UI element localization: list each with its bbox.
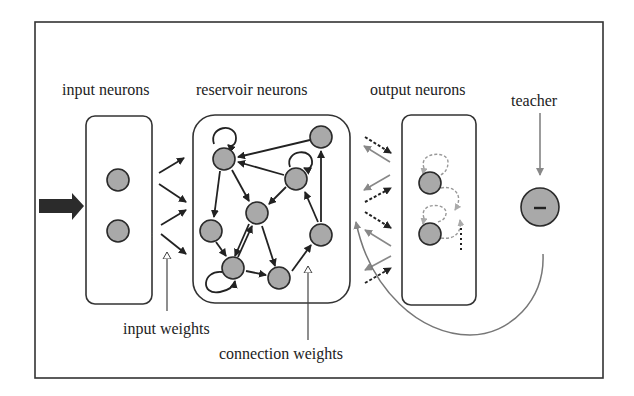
label-output-neurons: output neurons [370, 81, 466, 99]
reservoir-neuron-h [268, 267, 290, 289]
label-reservoir-neurons: reservoir neurons [196, 81, 308, 98]
reservoir-neuron-e [200, 220, 222, 242]
reservoir-neuron-g [222, 257, 244, 279]
label-input-neurons: input neurons [62, 81, 150, 99]
input-signal-arrow-icon [39, 193, 84, 220]
reservoir-neuron-b [310, 126, 332, 148]
output-neurons-box [402, 115, 476, 305]
reservoir-neuron-d [246, 202, 268, 224]
label-connection-weights: connection weights [219, 345, 343, 363]
reservoir-neuron-c [285, 168, 307, 190]
reservoir-neuron-f [310, 224, 332, 246]
input-ellipsis: ⋮ [147, 231, 157, 242]
reservoir-network-diagram: input neurons reservoir neurons output n… [0, 0, 634, 396]
output-neuron-2 [419, 223, 441, 245]
label-input-weights: input weights [123, 320, 210, 338]
label-teacher: teacher [511, 92, 558, 109]
input-weight-arrows [159, 158, 186, 254]
reservoir-neuron-a [213, 148, 235, 170]
input-neuron-1 [107, 169, 129, 191]
input-neurons-box [86, 116, 152, 304]
output-neuron-1 [419, 172, 441, 194]
input-neuron-2 [107, 220, 129, 242]
